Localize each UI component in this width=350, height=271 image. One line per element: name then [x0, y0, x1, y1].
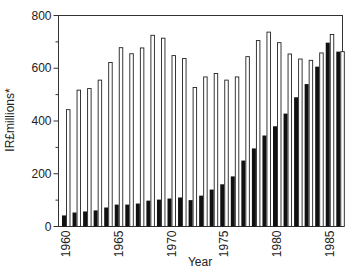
bar-black-1970 — [168, 199, 172, 227]
x-tick-label: 1975 — [217, 230, 231, 257]
bar-white-1984 — [320, 53, 324, 227]
bar-white-1965 — [119, 48, 123, 227]
x-axis: 196019651970197519801985 — [59, 230, 337, 257]
bar-white-1961 — [77, 90, 81, 226]
bar-black-1973 — [199, 196, 203, 227]
bar-black-1966 — [125, 205, 129, 227]
bar-white-1973 — [204, 77, 208, 227]
bar-black-1972 — [189, 200, 193, 226]
bar-black-1964 — [104, 208, 108, 227]
bar-white-1985 — [330, 34, 334, 226]
bar-white-1960 — [67, 110, 71, 227]
bar-white-1972 — [193, 88, 197, 227]
x-tick-label: 1985 — [323, 230, 337, 257]
bar-black-1983 — [305, 84, 309, 226]
bar-black-1975 — [220, 184, 224, 226]
bar-white-1967 — [140, 48, 144, 227]
bar-black-1981 — [284, 114, 288, 227]
bar-white-1981 — [288, 54, 292, 226]
bar-white-1966 — [130, 54, 134, 227]
bar-black-1961 — [73, 213, 77, 227]
bar-black-1982 — [294, 97, 298, 226]
x-tick-label: 1970 — [165, 230, 179, 257]
bar-chart: 0200400600800 196019651970197519801985 Y… — [0, 0, 350, 271]
y-tick-label: 600 — [31, 61, 51, 75]
bar-black-1969 — [157, 200, 161, 227]
bar-white-1971 — [183, 58, 187, 226]
bar-black-1963 — [94, 210, 98, 226]
bar-white-1962 — [88, 89, 92, 227]
bar-black-1986 — [336, 52, 340, 227]
x-tick-label: 1980 — [270, 230, 284, 257]
bar-white-1980 — [278, 43, 282, 227]
y-tick-label: 0 — [45, 220, 52, 234]
bar-black-1967 — [136, 204, 140, 227]
bar-white-1975 — [225, 80, 229, 226]
bar-black-1985 — [326, 43, 330, 227]
bar-white-1979 — [267, 32, 271, 226]
y-tick-label: 400 — [31, 114, 51, 128]
bar-black-1976 — [231, 176, 235, 226]
bar-white-1977 — [246, 57, 250, 227]
bar-white-1983 — [309, 60, 313, 226]
bar-white-1968 — [151, 35, 155, 226]
bar-black-1960 — [62, 215, 66, 226]
y-axis-title: IR£millions* — [3, 88, 17, 152]
bar-white-1969 — [161, 38, 165, 226]
x-tick-label: 1965 — [112, 230, 126, 257]
bar-white-1982 — [299, 59, 303, 226]
bars-group — [62, 32, 344, 226]
x-axis-title: Year — [188, 255, 212, 269]
bar-black-1968 — [146, 201, 150, 227]
bar-white-1976 — [235, 77, 239, 227]
bar-black-1984 — [315, 67, 319, 227]
y-tick-label: 200 — [31, 167, 51, 181]
bar-white-1978 — [256, 41, 260, 227]
bar-black-1974 — [210, 190, 214, 227]
bar-black-1978 — [252, 148, 256, 226]
bar-white-1970 — [172, 56, 176, 227]
bar-black-1962 — [83, 211, 87, 226]
bar-black-1971 — [178, 197, 182, 226]
bar-white-1964 — [109, 62, 113, 226]
y-tick-label: 800 — [31, 9, 51, 23]
bar-black-1979 — [262, 136, 266, 227]
bar-black-1965 — [115, 205, 119, 227]
bar-white-1963 — [98, 80, 102, 226]
bar-black-1977 — [241, 161, 245, 227]
bar-white-1986 — [341, 52, 345, 227]
y-axis: 0200400600800 — [31, 9, 58, 234]
x-tick-label: 1960 — [59, 230, 73, 257]
bar-black-1980 — [273, 126, 277, 226]
bar-white-1974 — [214, 74, 218, 227]
